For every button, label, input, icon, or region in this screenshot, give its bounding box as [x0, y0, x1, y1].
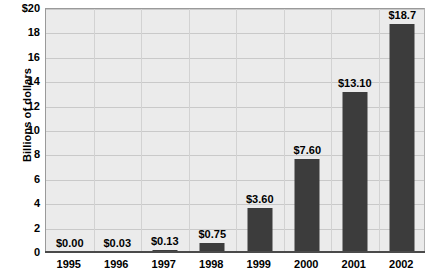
bar-slot: $7.60	[284, 9, 332, 252]
bar-slot: $0.13	[141, 9, 189, 252]
y-tick-label: $20	[4, 2, 40, 14]
bar-value-label: $7.60	[293, 144, 321, 156]
plot-area: $0.00$0.03$0.13$0.75$3.60$7.60$13.10$18.…	[45, 8, 425, 252]
bar[interactable]	[342, 92, 367, 252]
bar-value-label: $18.7	[388, 9, 416, 21]
y-tick-label: 14	[4, 75, 40, 87]
bar-slot: $18.7	[379, 9, 426, 252]
y-tick-label: 8	[4, 148, 40, 160]
x-tick-label: 2001	[342, 258, 366, 270]
x-tick-label: 1999	[247, 258, 271, 270]
x-tick-label: 1995	[57, 258, 81, 270]
bars-layer: $0.00$0.03$0.13$0.75$3.60$7.60$13.10$18.…	[46, 9, 424, 252]
y-tick-label: 16	[4, 51, 40, 63]
y-tick-label: 0	[4, 246, 40, 258]
bar-value-label: $0.00	[56, 237, 84, 249]
bar-value-label: $3.60	[246, 193, 274, 205]
x-axis-tick-labels: 19951996199719981999200020012002	[45, 256, 425, 276]
x-tick-label: 2002	[389, 258, 413, 270]
y-tick-label: 4	[4, 197, 40, 209]
y-tick-label: 12	[4, 100, 40, 112]
bar[interactable]	[247, 208, 272, 252]
x-axis-line	[45, 251, 425, 253]
bar-value-label: $0.03	[103, 237, 131, 249]
bar-slot: $0.75	[189, 9, 237, 252]
bar-slot: $0.00	[46, 9, 94, 252]
y-tick-label: 18	[4, 26, 40, 38]
bar[interactable]	[295, 159, 320, 252]
y-tick-label: 2	[4, 222, 40, 234]
x-tick-label: 1996	[104, 258, 128, 270]
bar-slot: $3.60	[236, 9, 284, 252]
bar-value-label: $13.10	[338, 77, 372, 89]
bar-chart: Billions of dollars 024681012141618$20 $…	[0, 0, 441, 278]
bar-value-label: $0.75	[198, 228, 226, 240]
bar-value-label: $0.13	[151, 235, 179, 247]
x-tick-label: 2000	[294, 258, 318, 270]
x-tick-label: 1998	[199, 258, 223, 270]
bar-slot: $0.03	[94, 9, 142, 252]
bar-slot: $13.10	[331, 9, 379, 252]
y-tick-label: 10	[4, 124, 40, 136]
bar[interactable]	[390, 24, 415, 252]
x-tick-label: 1997	[152, 258, 176, 270]
y-axis-tick-labels: 024681012141618$20	[4, 8, 40, 252]
y-tick-label: 6	[4, 173, 40, 185]
